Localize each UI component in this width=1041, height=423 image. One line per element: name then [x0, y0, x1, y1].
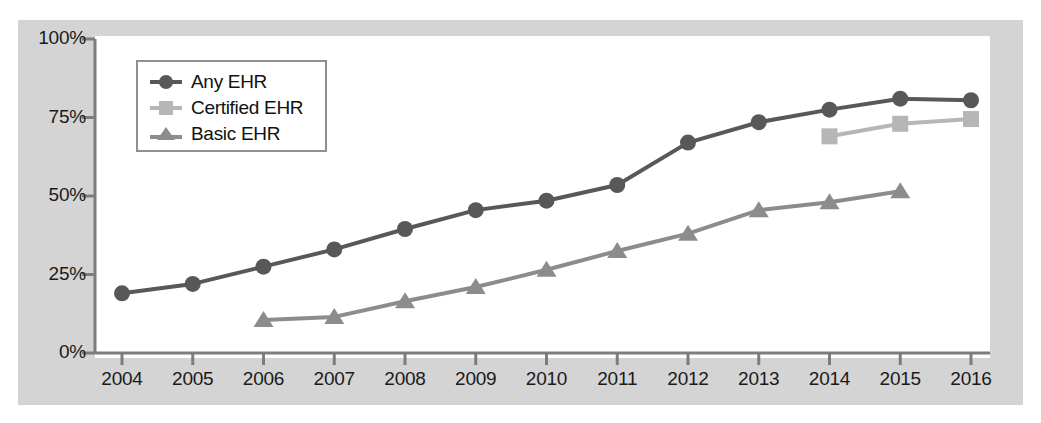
y-axis-tick-label: 75% [8, 106, 86, 128]
x-axis-tick-label: 2004 [82, 368, 162, 390]
data-point-circle [892, 91, 908, 107]
x-axis-tick-label: 2010 [507, 368, 587, 390]
data-point-triangle [890, 182, 910, 198]
data-point-circle [468, 202, 484, 218]
data-point-square [822, 128, 838, 144]
x-axis-tick-label: 2011 [577, 368, 657, 390]
y-axis-tick-label: 100% [8, 27, 86, 49]
series-line [264, 191, 901, 320]
x-axis-tick-label: 2009 [436, 368, 516, 390]
data-point-square [892, 116, 908, 132]
series-certified-ehr [822, 111, 980, 144]
data-point-square [963, 111, 979, 127]
legend-entry-basic-ehr: Basic EHR [148, 121, 325, 147]
x-axis-tick-label: 2013 [719, 368, 799, 390]
legend-label-basic-ehr: Basic EHR [191, 123, 280, 145]
data-point-circle [397, 221, 413, 237]
circle-marker-icon [148, 72, 184, 92]
x-axis-tick-label: 2008 [365, 368, 445, 390]
chart-legend: Any EHR Certified EHR Basic EHR [136, 60, 327, 152]
x-axis-tick-label: 2016 [931, 368, 1011, 390]
data-point-circle [822, 102, 838, 118]
x-axis-tick-label: 2014 [790, 368, 870, 390]
legend-entry-any-ehr: Any EHR [148, 69, 325, 95]
x-axis-tick-label: 2015 [860, 368, 940, 390]
x-axis-tick-label: 2005 [153, 368, 233, 390]
y-axis-tick-label: 25% [8, 263, 86, 285]
data-point-circle [751, 114, 767, 130]
square-marker-icon [148, 98, 184, 118]
data-point-circle [256, 259, 272, 275]
y-axis-tick-label: 50% [8, 184, 86, 206]
x-axis-tick-label: 2006 [224, 368, 304, 390]
x-axis-tick-label: 2007 [294, 368, 374, 390]
data-point-circle [326, 241, 342, 257]
legend-label-certified-ehr: Certified EHR [191, 97, 303, 119]
data-point-circle [539, 193, 555, 209]
x-axis-tick-label: 2012 [648, 368, 728, 390]
data-point-circle [114, 285, 130, 301]
legend-entry-certified-ehr: Certified EHR [148, 95, 325, 121]
triangle-marker-icon [148, 124, 184, 144]
data-point-circle [185, 276, 201, 292]
data-point-circle [680, 135, 696, 151]
chart-figure: 0%25%50%75%100% 200420052006200720082009… [0, 0, 1041, 423]
y-axis-tick-label: 0% [8, 341, 86, 363]
data-point-circle [609, 177, 625, 193]
legend-label-any-ehr: Any EHR [191, 71, 267, 93]
data-point-circle [963, 92, 979, 108]
series-basic-ehr [254, 182, 911, 327]
